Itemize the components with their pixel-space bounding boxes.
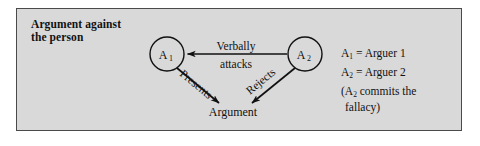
- legend-a1-subscript: 1: [349, 52, 353, 61]
- legend-note-open: (A: [341, 85, 353, 97]
- node-a2-base: A: [297, 48, 306, 62]
- node-a1-subscript: 1: [169, 54, 173, 63]
- legend-note: (A2 commits thefallacy): [341, 84, 459, 114]
- node-a2-subscript: 2: [307, 54, 311, 63]
- legend-a2-text: = Arguer 2: [353, 66, 406, 78]
- legend-note-second-line: fallacy): [341, 100, 459, 114]
- diagram-panel: Argument against the person Verbally att…: [16, 8, 462, 131]
- legend: A1 = Arguer 1 A2 = Arguer 2 (A2 commits …: [341, 45, 459, 114]
- legend-note-rest: commits the: [357, 85, 416, 97]
- edge-label-presents: Presents: [178, 67, 216, 101]
- edge-label-rejects: Rejects: [244, 65, 279, 97]
- legend-row-a2: A2 = Arguer 2: [341, 64, 459, 83]
- node-a1: A 1: [150, 37, 184, 71]
- legend-a1-text: = Arguer 1: [353, 47, 406, 59]
- figure-root: Argument against the person Verbally att…: [0, 0, 480, 146]
- legend-a2-subscript: 2: [349, 71, 353, 80]
- edge-label-verbally: Verbally: [217, 40, 256, 53]
- node-argument-label: Argument: [209, 105, 258, 119]
- legend-note-subscript: 2: [353, 90, 357, 99]
- legend-row-a1: A1 = Arguer 1: [341, 45, 459, 64]
- node-a2: A 2: [288, 37, 322, 71]
- edge-label-attacks: attacks: [220, 58, 252, 70]
- node-a1-base: A: [159, 48, 168, 62]
